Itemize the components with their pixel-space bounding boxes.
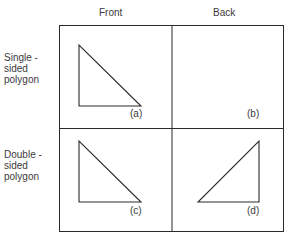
cell-label-d: (d) [247,205,259,216]
cell-label-a: (a) [130,108,142,119]
cell-label-b: (b) [247,108,259,119]
triangle-d [198,141,259,202]
cell-label-c: (c) [130,205,142,216]
diagram-grid [0,0,287,233]
triangle-a [79,45,141,106]
triangle-c [79,141,141,202]
